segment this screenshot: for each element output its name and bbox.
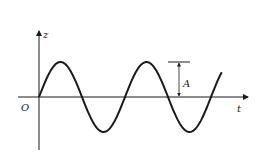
amplitude-label: A [182, 78, 190, 89]
sine-wave-diagram: z t O A [0, 0, 262, 161]
origin-label: O [21, 102, 29, 113]
t-axis-label: t [237, 103, 242, 114]
z-axis-label: z [42, 29, 49, 40]
